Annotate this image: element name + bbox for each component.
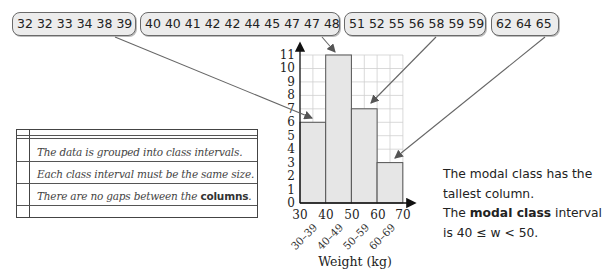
svg-text:4: 4 [287,142,295,156]
explanation-line-3-emphasis: modal class [470,206,551,220]
svg-text:30–39: 30–39 [288,221,319,252]
notepad-rule [17,138,257,139]
notepad-margin-line [29,130,30,217]
notepad-rule [17,161,257,162]
note-line-3-end: . [248,190,251,202]
svg-text:10: 10 [280,61,295,75]
svg-text:60: 60 [370,208,385,222]
arrow-40-49 [322,37,335,52]
svg-text:50–59: 50–59 [340,221,371,252]
svg-text:50: 50 [344,208,359,222]
svg-text:6: 6 [287,115,295,129]
bar-30-39 [300,122,326,203]
category-labels: 30–39 40–49 50–59 60–69 [288,221,397,252]
modal-class-explanation: The modal class has the tallest column. … [443,165,602,243]
notepad-rule [17,135,257,136]
histogram-bars [300,55,403,203]
svg-text:5: 5 [287,129,295,143]
svg-text:70: 70 [395,208,410,222]
svg-text:9: 9 [287,75,295,89]
svg-text:40–49: 40–49 [314,221,345,252]
svg-text:1: 1 [287,183,295,197]
svg-text:2: 2 [287,169,295,183]
note-line-3-emphasis: columns [200,190,248,202]
note-line-3-text: There are no gaps between the [37,190,200,202]
note-line-2: Each class interval must be the same siz… [37,168,254,180]
notes-panel: The data is grouped into class intervals… [16,129,258,218]
svg-text:30: 30 [292,208,307,222]
note-line-1: The data is grouped into class intervals… [37,146,242,158]
explanation-line-4: is 40 ≤ w < 50. [443,224,602,244]
explanation-line-3: The modal class interval [443,204,602,224]
svg-text:60–69: 60–69 [366,221,397,252]
bar-50-59 [351,109,377,203]
explanation-line-3-end: interval [551,206,602,220]
x-axis-title: Weight (kg) [318,254,392,269]
bar-40-49 [326,55,352,203]
explanation-line-3-text: The [443,206,470,220]
note-line-3: There are no gaps between the columns. [37,190,251,202]
svg-text:11: 11 [280,48,295,62]
svg-text:3: 3 [287,156,295,170]
arrow-50-59 [371,37,436,103]
y-tick-labels: 0 1 2 3 4 5 6 7 8 9 10 11 [280,48,296,210]
explanation-line-1: The modal class has the [443,165,602,185]
explanation-line-2: tallest column. [443,185,602,205]
x-tick-labels: 30 40 50 60 70 [292,208,410,222]
svg-text:8: 8 [287,88,295,102]
svg-text:40: 40 [318,208,333,222]
notepad-rule [17,183,257,184]
notepad-rule [17,205,257,206]
bar-60-69 [377,163,403,203]
